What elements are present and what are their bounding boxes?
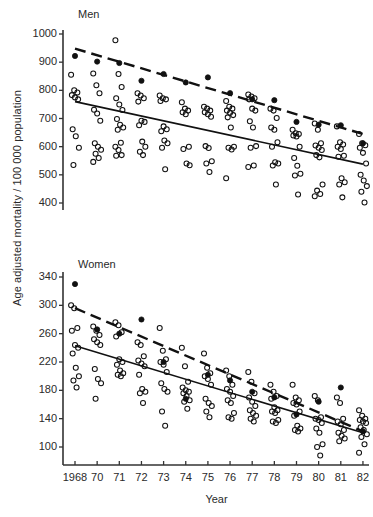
y-tick-label: 140 xyxy=(17,412,57,424)
data-point-open xyxy=(247,408,252,413)
data-point-open xyxy=(98,343,103,348)
data-point-open xyxy=(76,374,81,379)
y-tick-label: 900 xyxy=(17,55,57,67)
data-point-open xyxy=(143,389,148,394)
data-point-open xyxy=(95,340,100,345)
data-point-open xyxy=(315,445,320,450)
data-point-open xyxy=(92,337,97,342)
y-tick-label: 100 xyxy=(17,440,57,452)
data-point-open xyxy=(226,415,231,420)
data-point-open xyxy=(341,416,346,421)
x-axis-label: Year xyxy=(60,493,373,505)
data-point-open xyxy=(334,395,339,400)
data-point-open xyxy=(137,391,142,396)
data-point-open xyxy=(253,403,258,408)
data-point-open xyxy=(99,381,104,386)
data-point-open xyxy=(93,396,98,401)
data-point-filled xyxy=(272,395,277,400)
data-point-open xyxy=(179,345,184,350)
data-point-open xyxy=(246,369,251,374)
data-point-filled xyxy=(250,389,255,394)
data-point-open xyxy=(185,406,190,411)
data-point-open xyxy=(207,415,212,420)
data-point-open xyxy=(206,401,211,406)
data-point-open xyxy=(290,382,295,387)
data-point-open xyxy=(73,343,78,348)
y-tick-label: 300 xyxy=(17,298,57,310)
data-point-open xyxy=(228,401,233,406)
data-point-open xyxy=(135,340,140,345)
data-point-open xyxy=(70,351,75,356)
y-tick-label: 260 xyxy=(17,327,57,339)
data-point-open xyxy=(268,382,273,387)
data-point-open xyxy=(225,398,230,403)
data-point-filled xyxy=(183,396,188,401)
data-point-open xyxy=(224,368,229,373)
data-point-open xyxy=(231,411,236,416)
data-point-filled xyxy=(227,378,232,383)
data-point-open xyxy=(113,320,118,325)
data-point-open xyxy=(357,418,362,423)
data-point-open xyxy=(338,401,343,406)
data-point-open xyxy=(114,362,119,367)
data-point-open xyxy=(254,413,259,418)
data-point-open xyxy=(163,423,168,428)
y-tick-label: 220 xyxy=(17,355,57,367)
y-tick-label: 340 xyxy=(17,270,57,282)
data-point-open xyxy=(339,433,344,438)
data-point-open xyxy=(248,416,253,421)
data-point-filled xyxy=(117,331,122,336)
y-tick-label: 400 xyxy=(17,196,57,208)
data-point-open xyxy=(138,343,143,348)
data-point-open xyxy=(69,328,74,333)
data-point-filled xyxy=(338,385,343,390)
data-point-open xyxy=(180,385,185,390)
y-tick-label: 180 xyxy=(17,383,57,395)
data-point-open xyxy=(160,348,165,353)
data-point-open xyxy=(165,389,170,394)
data-point-filled xyxy=(294,412,299,417)
data-point-open xyxy=(270,419,275,424)
data-point-open xyxy=(204,409,209,414)
data-point-open xyxy=(162,386,167,391)
data-point-open xyxy=(342,436,347,441)
data-point-open xyxy=(69,303,74,308)
y-tick-label: 700 xyxy=(17,112,57,124)
data-point-filled xyxy=(205,372,210,377)
data-point-filled xyxy=(95,327,100,332)
data-point-filled xyxy=(161,359,166,364)
data-point-open xyxy=(160,409,165,414)
data-point-open xyxy=(136,358,141,363)
data-point-open xyxy=(71,378,76,383)
y-tick-label: 800 xyxy=(17,83,57,95)
data-point-open xyxy=(157,326,162,331)
y-tick-label: 1000 xyxy=(17,27,57,39)
data-point-open xyxy=(341,428,346,433)
data-point-open xyxy=(317,430,322,435)
data-point-open xyxy=(359,435,364,440)
data-point-open xyxy=(293,395,298,400)
data-point-open xyxy=(74,385,79,390)
data-point-open xyxy=(336,430,341,435)
data-point-open xyxy=(73,365,78,370)
data-point-open xyxy=(97,333,102,338)
data-point-open xyxy=(92,367,97,372)
data-point-open xyxy=(141,354,146,359)
data-point-open xyxy=(224,386,229,391)
data-point-open xyxy=(202,351,207,356)
data-point-filled xyxy=(360,429,365,434)
data-point-open xyxy=(209,403,214,408)
data-point-open xyxy=(250,411,255,416)
data-point-filled xyxy=(316,399,321,404)
data-point-open xyxy=(141,401,146,406)
data-point-open xyxy=(75,326,80,331)
y-tick-label: 500 xyxy=(17,168,57,180)
data-point-open xyxy=(116,323,121,328)
data-point-open xyxy=(182,364,187,369)
data-point-open xyxy=(270,409,275,414)
data-point-open xyxy=(292,428,297,433)
data-point-open xyxy=(337,439,342,444)
data-point-open xyxy=(251,419,256,424)
data-point-open xyxy=(159,381,164,386)
y-tick-label: 600 xyxy=(17,140,57,152)
